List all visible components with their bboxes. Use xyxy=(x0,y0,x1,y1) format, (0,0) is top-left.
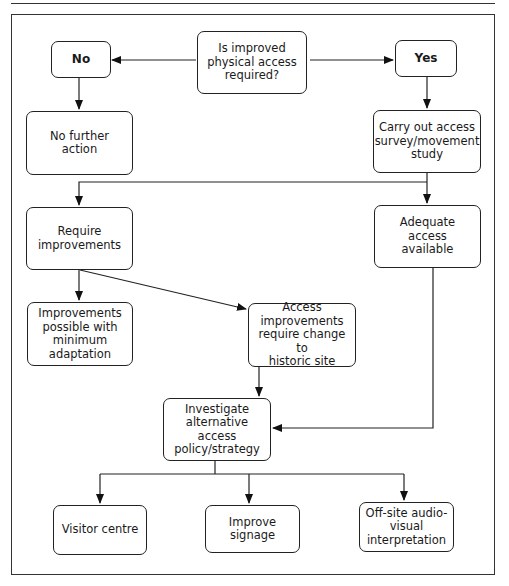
node-question: Is improved physical access required? xyxy=(197,31,307,94)
node-access-improvements-change: Access improvements require change to hi… xyxy=(248,303,356,367)
node-require-improvements: Require improvements xyxy=(26,207,133,270)
node-no-further-action-label: No further action xyxy=(50,130,109,157)
node-improvements-minimum-label: Improvements possible with minimum adapt… xyxy=(38,307,121,361)
node-question-label: Is improved physical access required? xyxy=(207,42,297,83)
node-improve-signage: Improve signage xyxy=(205,505,300,553)
node-investigate-alternative: Investigate alternative access policy/st… xyxy=(163,398,271,461)
node-carry-out-survey: Carry out access survey/movement study xyxy=(373,110,481,173)
node-improvements-minimum: Improvements possible with minimum adapt… xyxy=(27,302,133,366)
node-require-improvements-label: Require improvements xyxy=(38,225,121,252)
node-investigate-alternative-label: Investigate alternative access policy/st… xyxy=(168,403,266,457)
node-yes-label: Yes xyxy=(415,52,438,66)
node-yes: Yes xyxy=(395,40,457,77)
node-no: No xyxy=(51,41,111,78)
node-no-label: No xyxy=(72,53,90,67)
node-visitor-centre-label: Visitor centre xyxy=(62,523,139,537)
node-visitor-centre: Visitor centre xyxy=(53,505,147,555)
node-offsite-av: Off-site audio- visual interpretation xyxy=(359,502,454,552)
node-improve-signage-label: Improve signage xyxy=(210,516,295,543)
node-access-improvements-change-label: Access improvements require change to hi… xyxy=(253,301,351,369)
node-offsite-av-label: Off-site audio- visual interpretation xyxy=(366,507,448,548)
node-adequate-access-label: Adequate access available xyxy=(379,216,476,257)
node-adequate-access: Adequate access available xyxy=(374,205,481,268)
node-carry-out-survey-label: Carry out access survey/movement study xyxy=(375,121,480,162)
node-no-further-action: No further action xyxy=(26,111,133,175)
